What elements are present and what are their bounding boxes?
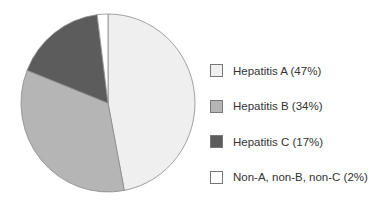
legend-label: Hepatitis B (34%) xyxy=(233,100,322,112)
legend-swatch xyxy=(210,135,223,148)
legend-swatch xyxy=(210,64,223,77)
legend: Hepatitis A (47%) Hepatitis B (34%) Hepa… xyxy=(210,64,368,201)
legend-label: Non-A, non-B, non-C (2%) xyxy=(233,171,368,183)
legend-item-hepatitis-c: Hepatitis C (17%) xyxy=(210,135,368,148)
legend-item-hepatitis-b: Hepatitis B (34%) xyxy=(210,100,368,113)
legend-label: Hepatitis C (17%) xyxy=(233,136,323,148)
legend-swatch xyxy=(210,100,223,113)
legend-label: Hepatitis A (47%) xyxy=(233,65,321,77)
legend-item-non-abc: Non-A, non-B, non-C (2%) xyxy=(210,171,368,184)
legend-swatch xyxy=(210,171,223,184)
legend-item-hepatitis-a: Hepatitis A (47%) xyxy=(210,64,368,77)
pie-slice-hepatitis-a xyxy=(108,14,195,190)
pie-chart xyxy=(0,0,200,201)
